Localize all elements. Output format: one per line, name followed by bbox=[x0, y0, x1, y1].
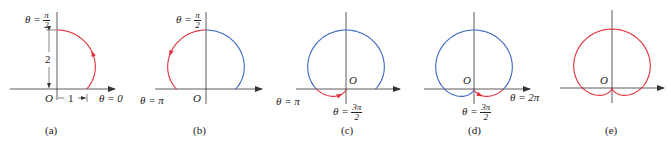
caption-c: (c) bbox=[341, 124, 353, 136]
figure-canvas bbox=[0, 0, 671, 144]
label-theta-3pi-over-2: θ = 3π2 bbox=[462, 103, 491, 122]
fraction-denominator: 2 bbox=[43, 21, 50, 30]
fraction: 3π2 bbox=[480, 103, 491, 122]
label-origin: O bbox=[45, 93, 53, 104]
fraction: π2 bbox=[194, 11, 201, 30]
label-theta-0: θ = 0 bbox=[99, 93, 123, 104]
label-origin: O bbox=[600, 75, 608, 86]
caption-a: (a) bbox=[45, 124, 57, 136]
label-height-2: 2 bbox=[45, 54, 51, 65]
label-width-1: 1 bbox=[68, 93, 74, 104]
direction-arrow-icon bbox=[476, 92, 483, 99]
caption-d: (d) bbox=[468, 124, 481, 136]
fraction-denominator: 2 bbox=[351, 113, 362, 122]
label-origin: O bbox=[349, 75, 357, 86]
label-theta-3pi-over-2: θ = 3π2 bbox=[333, 103, 362, 122]
label-theta-pi: θ = π bbox=[140, 95, 164, 106]
fraction-denominator: 2 bbox=[480, 113, 491, 122]
curve-traced bbox=[168, 30, 206, 89]
fraction: π2 bbox=[43, 11, 50, 30]
panel-c bbox=[296, 12, 400, 104]
fraction-denominator: 2 bbox=[194, 21, 201, 30]
label-origin: O bbox=[193, 93, 201, 104]
curve-previous bbox=[206, 30, 244, 89]
label-text: θ = bbox=[333, 105, 351, 117]
panel-b bbox=[155, 12, 262, 104]
curve-traced bbox=[57, 30, 95, 89]
direction-arrow-icon bbox=[89, 50, 96, 57]
caption-b: (b) bbox=[193, 124, 206, 136]
label-theta-pi-over-2: θ = π2 bbox=[176, 11, 201, 30]
label-text: θ = bbox=[25, 13, 43, 25]
label-origin: O bbox=[463, 75, 471, 86]
curve-traced bbox=[317, 89, 347, 96]
panel-e bbox=[560, 10, 664, 103]
label-text: θ = bbox=[462, 105, 480, 117]
label-theta-pi: θ = π bbox=[276, 96, 300, 107]
label-text: θ = bbox=[176, 13, 194, 25]
cardioid-figure: θ = π2 2 O 1 θ = 0 (a) θ = π2 θ = π O (b… bbox=[0, 0, 671, 144]
direction-arrow-icon bbox=[336, 92, 343, 99]
fraction: 3π2 bbox=[351, 103, 362, 122]
label-theta-2pi: θ = 2π bbox=[510, 92, 539, 103]
direction-arrow-icon bbox=[167, 50, 174, 57]
label-theta-pi-over-2: θ = π2 bbox=[25, 11, 50, 30]
caption-e: (e) bbox=[605, 124, 617, 136]
